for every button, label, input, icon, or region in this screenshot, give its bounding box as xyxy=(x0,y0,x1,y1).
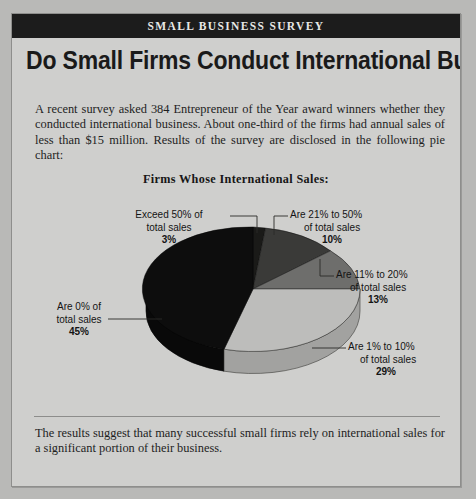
pie-label-1to10: Are 1% to 10% of total sales 29% xyxy=(348,341,461,379)
pie-label-0pct: Are 0% of total sales 45% xyxy=(24,301,134,339)
banner-title: SMALL BUSINESS SURVEY xyxy=(148,20,325,32)
intro-paragraph: A recent survey asked 384 Entrepreneur o… xyxy=(35,102,445,164)
pie-label-21to50-line2: of total sales xyxy=(304,222,360,235)
pie-label-exceed50-percent: 3% xyxy=(110,234,228,247)
pie-label-1to10-line1: Are 1% to 10% xyxy=(348,341,415,352)
pie-label-21to50: Are 21% to 50% of total sales 10% xyxy=(290,209,416,247)
pie-label-11to20: Are 11% to 20% of total sales 13% xyxy=(336,269,461,307)
pie-label-1to10-line2: of total sales xyxy=(360,354,416,367)
pie-label-exceed50-line1: Exceed 50% of xyxy=(135,209,202,220)
pie-label-exceed50: Exceed 50% of total sales 3% xyxy=(110,209,228,247)
pie-label-11to20-line1: Are 11% to 20% xyxy=(336,269,408,280)
page-title: Do Small Firms Conduct International Bus… xyxy=(26,46,412,74)
footer-divider xyxy=(34,416,440,417)
pie-chart: Exceed 50% of total sales 3% Are 21% to … xyxy=(12,189,460,417)
survey-figure-panel: SMALL BUSINESS SURVEY Do Small Firms Con… xyxy=(11,13,461,487)
banner-bar: SMALL BUSINESS SURVEY xyxy=(12,14,460,38)
pie-label-11to20-percent: 13% xyxy=(368,294,461,307)
pie-label-0pct-percent: 45% xyxy=(24,326,134,339)
chart-title: Firms Whose International Sales: xyxy=(12,172,460,187)
pie-label-0pct-line1: Are 0% of xyxy=(57,301,101,312)
pie-label-21to50-line1: Are 21% to 50% xyxy=(290,209,362,220)
pie-label-21to50-percent: 10% xyxy=(322,234,416,247)
pie-label-0pct-line2: total sales xyxy=(56,314,101,325)
footer-paragraph: The results suggest that many successful… xyxy=(35,426,445,457)
pie-label-11to20-line2: of total sales xyxy=(350,282,406,295)
pie-label-1to10-percent: 29% xyxy=(376,366,461,379)
pie-label-exceed50-line2: total sales xyxy=(146,222,191,233)
